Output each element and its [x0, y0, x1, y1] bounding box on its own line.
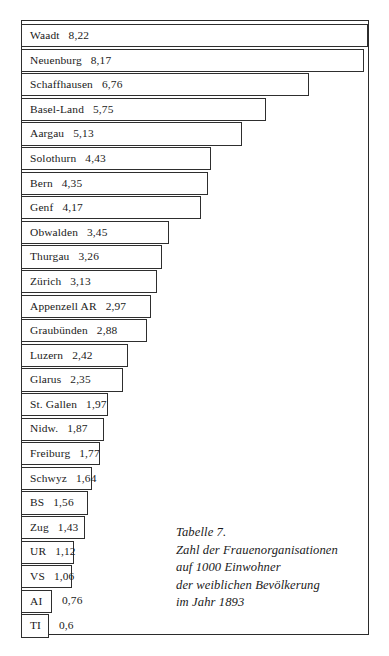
bar-row: Waadt8,22 — [21, 24, 369, 49]
bar-row: Luzern2,42 — [21, 343, 369, 368]
bar[interactable]: St. Gallen1,97 — [21, 393, 108, 416]
bar[interactable]: Obwalden3,45 — [21, 221, 169, 244]
bar-value: 6,76 — [93, 79, 123, 90]
bar[interactable]: Thurgau3,26 — [21, 245, 162, 268]
bar-value: 1,43 — [49, 522, 79, 533]
bar-value: 2,42 — [63, 350, 93, 361]
bar-row: Obwalden3,45 — [21, 220, 369, 245]
bar-value: 1,56 — [44, 497, 74, 508]
bar[interactable]: Schwyz1,64 — [21, 467, 92, 490]
bar-row: BS1,56 — [21, 491, 369, 516]
bar-label: Schaffhausen — [22, 79, 93, 90]
bar[interactable]: BS1,56 — [21, 491, 88, 514]
bar-value: 1,77 — [70, 448, 100, 459]
figure-caption: Tabelle 7.Zahl der Frauenorganisationena… — [176, 524, 362, 612]
bar[interactable]: VS1,06 — [21, 565, 72, 588]
bar-value: 4,35 — [53, 178, 83, 189]
bar-label: TI — [22, 620, 41, 631]
bar-row: Basel-Land5,75 — [21, 97, 369, 122]
bar[interactable]: Zug1,43 — [21, 516, 85, 539]
bar-value: 0,76 — [51, 596, 83, 607]
bar-row: Thurgau3,26 — [21, 245, 369, 270]
bar[interactable]: Graubünden2,88 — [21, 319, 147, 342]
bar[interactable]: Neuenburg8,17 — [21, 49, 364, 72]
bar-row: TI0,6 — [21, 614, 369, 639]
bar-row: Solothurn4,43 — [21, 146, 369, 171]
bar-label: UR — [22, 546, 46, 557]
bar-value: 1,97 — [77, 399, 107, 410]
bar[interactable]: Nidw.1,87 — [21, 418, 104, 441]
caption-line: auf 1000 Einwohner — [176, 559, 362, 577]
bar-label: Zug — [22, 522, 49, 533]
bar[interactable]: UR1,12 — [21, 541, 74, 564]
bar[interactable]: Waadt8,22 — [21, 24, 368, 47]
bar-value: 4,43 — [76, 153, 106, 164]
bar-label: Thurgau — [22, 251, 69, 262]
bar[interactable]: Solothurn4,43 — [21, 147, 211, 170]
bar-label: Appenzell AR — [22, 301, 97, 312]
bar-row: Genf4,17 — [21, 196, 369, 221]
bar-label: Aargau — [22, 128, 64, 139]
bar-label: Waadt — [22, 30, 60, 41]
bar-row: Aargau5,13 — [21, 122, 369, 147]
bar-label: Glarus — [22, 374, 61, 385]
bar-label: Graubünden — [22, 325, 88, 336]
bar-value: 0,6 — [48, 620, 74, 631]
bar-value: 3,26 — [69, 251, 99, 262]
bar[interactable]: Luzern2,42 — [21, 344, 128, 367]
caption-line: der weiblichen Bevölkerung — [176, 577, 362, 595]
bar-row: Appenzell AR2,97 — [21, 294, 369, 319]
bar-label: Bern — [22, 178, 53, 189]
bar-value: 5,75 — [84, 104, 114, 115]
bar[interactable]: Genf4,17 — [21, 196, 201, 219]
bar-label: Solothurn — [22, 153, 76, 164]
caption-line: Zahl der Frauenorganisationen — [176, 542, 362, 560]
bar[interactable]: Bern4,35 — [21, 172, 208, 195]
bar-row: Schwyz1,64 — [21, 466, 369, 491]
bar-value: 1,12 — [46, 546, 76, 557]
bar-value: 3,13 — [61, 276, 91, 287]
bar-row: Graubünden2,88 — [21, 319, 369, 344]
bar[interactable]: Freiburg1,77 — [21, 442, 100, 465]
bar-value: 4,17 — [53, 202, 83, 213]
bar[interactable]: Aargau5,13 — [21, 122, 242, 145]
bar[interactable]: TI0,6 — [21, 614, 49, 637]
bar-label: VS — [22, 571, 45, 582]
bar-row: Bern4,35 — [21, 171, 369, 196]
bar-value: 1,06 — [45, 571, 75, 582]
bar[interactable]: AI0,76 — [21, 590, 52, 613]
bar-label: Schwyz — [22, 473, 67, 484]
bar-label: Basel-Land — [22, 104, 84, 115]
bar-row: Neuenburg8,17 — [21, 48, 369, 73]
bar-row: Zürich3,13 — [21, 269, 369, 294]
bar-label: Luzern — [22, 350, 63, 361]
bar-row: St. Gallen1,97 — [21, 392, 369, 417]
bar-label: Obwalden — [22, 227, 78, 238]
bar-label: BS — [22, 497, 44, 508]
caption-line: im Jahr 1893 — [176, 594, 362, 612]
bar-row: Freiburg1,77 — [21, 442, 369, 467]
bar-value: 8,22 — [60, 30, 90, 41]
bar-label: AI — [22, 596, 42, 607]
bar-value: 3,45 — [78, 227, 108, 238]
bar-label: Zürich — [22, 276, 61, 287]
chart-figure: Waadt8,22Neuenburg8,17Schaffhausen6,76Ba… — [0, 0, 389, 656]
bar[interactable]: Glarus2,35 — [21, 368, 123, 391]
bar-row: Schaffhausen6,76 — [21, 73, 369, 98]
bar-value: 8,17 — [82, 55, 112, 66]
bar-value: 2,88 — [88, 325, 118, 336]
bar[interactable]: Basel-Land5,75 — [21, 98, 266, 121]
bar-value: 2,97 — [97, 301, 127, 312]
bar[interactable]: Zürich3,13 — [21, 270, 157, 293]
bar-value: 5,13 — [64, 128, 94, 139]
bar-label: Neuenburg — [22, 55, 82, 66]
bar-label: Genf — [22, 202, 53, 213]
bar-label: St. Gallen — [22, 399, 77, 410]
bar[interactable]: Schaffhausen6,76 — [21, 73, 309, 96]
bar-row: Nidw.1,87 — [21, 417, 369, 442]
bar-value: 1,64 — [67, 473, 97, 484]
bar-label: Nidw. — [22, 423, 58, 434]
bar-row: Glarus2,35 — [21, 368, 369, 393]
bar[interactable]: Appenzell AR2,97 — [21, 295, 151, 318]
bar-label: Freiburg — [22, 448, 70, 459]
